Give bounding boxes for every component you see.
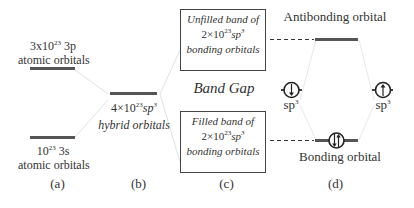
filled-band-line1: Filled band of: [181, 114, 265, 129]
filled-band-count: 2×1023sp3: [181, 129, 265, 144]
label-hybrid-count: 4×1023sp3: [93, 102, 175, 116]
connector-right-sp3-antibonding: [359, 40, 374, 100]
spin-up-orbital-icon: [372, 83, 393, 98]
connector-left-sp3-antibonding: [300, 40, 316, 100]
connector-3p-to-hybrid: [75, 70, 108, 94]
paired-spin-orbital-icon: [329, 133, 344, 148]
level-3s: [30, 136, 75, 139]
left-sp3-label: sp3: [276, 98, 306, 113]
label-hybrid-desc: hybrid orbitals: [93, 119, 175, 133]
filled-band-line3: bonding orbitals: [181, 144, 265, 159]
level-sp3-hybrid: [110, 92, 157, 95]
label-3s-desc: atomic orbitals: [18, 159, 88, 173]
label-3s-atomic-orbitals: 1023 3s atomic orbitals: [18, 145, 88, 173]
label-3p-atomic-orbitals: 3x1023 3p atomic orbitals: [18, 40, 88, 68]
caption-c: (c): [209, 177, 244, 192]
unfilled-band-line3: bonding orbitals: [181, 42, 265, 57]
unfilled-band-box: Unfilled band of 2×1023sp3 bonding orbit…: [180, 9, 266, 71]
bonding-orbital-label: Bonding orbital: [290, 150, 390, 165]
unfilled-band-count: 2×1023sp3: [181, 27, 265, 42]
antibonding-orbital-label: Antibonding orbital: [280, 10, 390, 25]
level-antibonding: [315, 38, 358, 41]
label-3s-count: 1023 3s: [18, 145, 88, 159]
caption-d: (d): [318, 177, 353, 192]
spin-down-orbital-icon: [281, 83, 302, 98]
band-gap-label: Band Gap: [180, 80, 268, 97]
connector-hybrid-to-unfilled: [160, 50, 180, 94]
unfilled-band-line1: Unfilled band of: [181, 12, 265, 27]
caption-b: (b): [121, 177, 156, 192]
label-sp3-hybrid-orbitals: 4×1023sp3 hybrid orbitals: [93, 102, 175, 133]
label-3p-desc: atomic orbitals: [18, 54, 88, 68]
right-sp3-label: sp3: [368, 98, 398, 113]
caption-a: (a): [40, 177, 75, 192]
label-3p-count: 3x1023 3p: [18, 40, 88, 54]
filled-band-box: Filled band of 2×1023sp3 bonding orbital…: [180, 111, 266, 173]
